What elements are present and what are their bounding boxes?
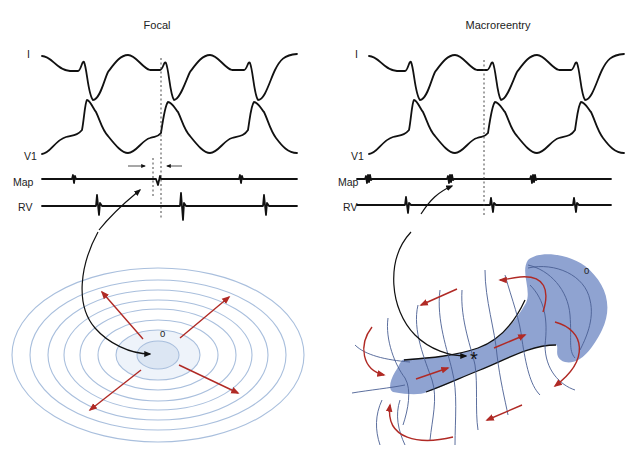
lead-label-v1: V1 xyxy=(351,150,364,162)
circuit-arrow-left-lower xyxy=(390,405,453,440)
ecg-trace-lead-v1 xyxy=(42,100,297,154)
link-arrow-to-map-macroreentry xyxy=(421,186,452,214)
circuit-origin-label: 0 xyxy=(584,265,589,276)
lead-label-i: I xyxy=(355,48,358,60)
panel-title-macroreentry: Macroreentry xyxy=(466,19,531,31)
reentry-circuit-isthmus xyxy=(390,254,607,394)
ecg-trace-lead-i xyxy=(42,54,297,100)
ecg-trace-lead-i xyxy=(369,54,624,100)
ecg-trace-rv xyxy=(42,193,297,220)
lead-label-v1: V1 xyxy=(24,150,37,162)
spread-arrow-up-right xyxy=(180,297,229,338)
lead-label-i: I xyxy=(27,48,30,60)
link-arrow-to-map-focal xyxy=(99,190,140,230)
focal-isochrone-rings xyxy=(12,268,304,442)
spread-arrow-lower-left xyxy=(487,405,522,420)
lead-label-map: Map xyxy=(338,176,359,188)
pacing-site-marker: * xyxy=(470,348,478,370)
focal-panel: Focal I V1 Map RV 0 xyxy=(12,19,304,442)
ecg-trace-map xyxy=(42,175,297,185)
spread-arrow-up-left xyxy=(102,292,143,339)
focal-origin-site xyxy=(137,341,179,369)
lead-label-map: Map xyxy=(13,176,34,188)
lead-label-rv: RV xyxy=(343,201,357,213)
focal-origin-label: 0 xyxy=(160,328,165,339)
ecg-trace-lead-v1 xyxy=(369,100,624,154)
spread-arrow-down-right xyxy=(179,365,238,393)
macroreentry-panel: Macroreentry I V1 Map RV xyxy=(338,19,624,445)
link-curve-arrow-macroreentry xyxy=(394,232,466,356)
circuit-arrow-left-upper xyxy=(364,327,384,375)
lead-label-rv: RV xyxy=(18,201,32,213)
panel-title-focal: Focal xyxy=(144,19,171,31)
